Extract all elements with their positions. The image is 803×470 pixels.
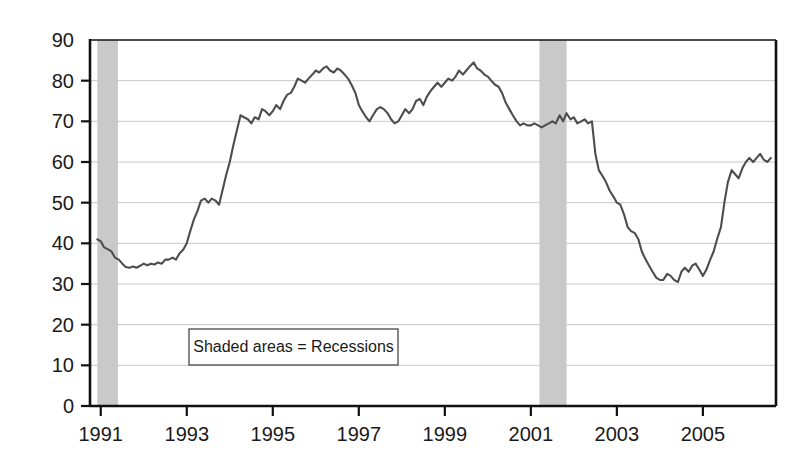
x-tick-label-1997: 1997 bbox=[337, 423, 382, 445]
y-tick-label-70: 70 bbox=[52, 110, 74, 132]
legend-note-box: Shaded areas = Recessions bbox=[189, 329, 398, 365]
x-axis-labels: 19911993199519971999200120032005 bbox=[79, 423, 726, 445]
y-tick-label-80: 80 bbox=[52, 70, 74, 92]
x-tick-label-2003: 2003 bbox=[595, 423, 640, 445]
y-tick-label-50: 50 bbox=[52, 192, 74, 214]
y-tick-label-0: 0 bbox=[63, 395, 74, 417]
x-tick-label-1993: 1993 bbox=[165, 423, 210, 445]
y-axis-ticks bbox=[81, 81, 90, 406]
x-tick-label-1991: 1991 bbox=[79, 423, 124, 445]
y-tick-label-40: 40 bbox=[52, 232, 74, 254]
y-tick-label-90: 90 bbox=[52, 29, 74, 51]
legend-note-label: Shaded areas = Recessions bbox=[193, 338, 394, 355]
chart-container: 0102030405060708090 19911993199519971999… bbox=[0, 0, 803, 470]
x-axis-ticks bbox=[101, 406, 703, 416]
series-line-0 bbox=[97, 62, 771, 282]
x-tick-label-1995: 1995 bbox=[251, 423, 296, 445]
x-tick-label-2005: 2005 bbox=[681, 423, 726, 445]
line-chart: 0102030405060708090 19911993199519971999… bbox=[0, 0, 803, 470]
y-tick-label-20: 20 bbox=[52, 314, 74, 336]
recession-1990-1991 bbox=[97, 40, 118, 406]
y-tick-label-60: 60 bbox=[52, 151, 74, 173]
recession-2001 bbox=[539, 40, 566, 406]
series-lines bbox=[97, 62, 771, 282]
y-axis-labels: 0102030405060708090 bbox=[52, 29, 74, 417]
x-tick-label-1999: 1999 bbox=[423, 423, 468, 445]
y-tick-label-10: 10 bbox=[52, 354, 74, 376]
x-tick-label-2001: 2001 bbox=[509, 423, 554, 445]
y-tick-label-30: 30 bbox=[52, 273, 74, 295]
